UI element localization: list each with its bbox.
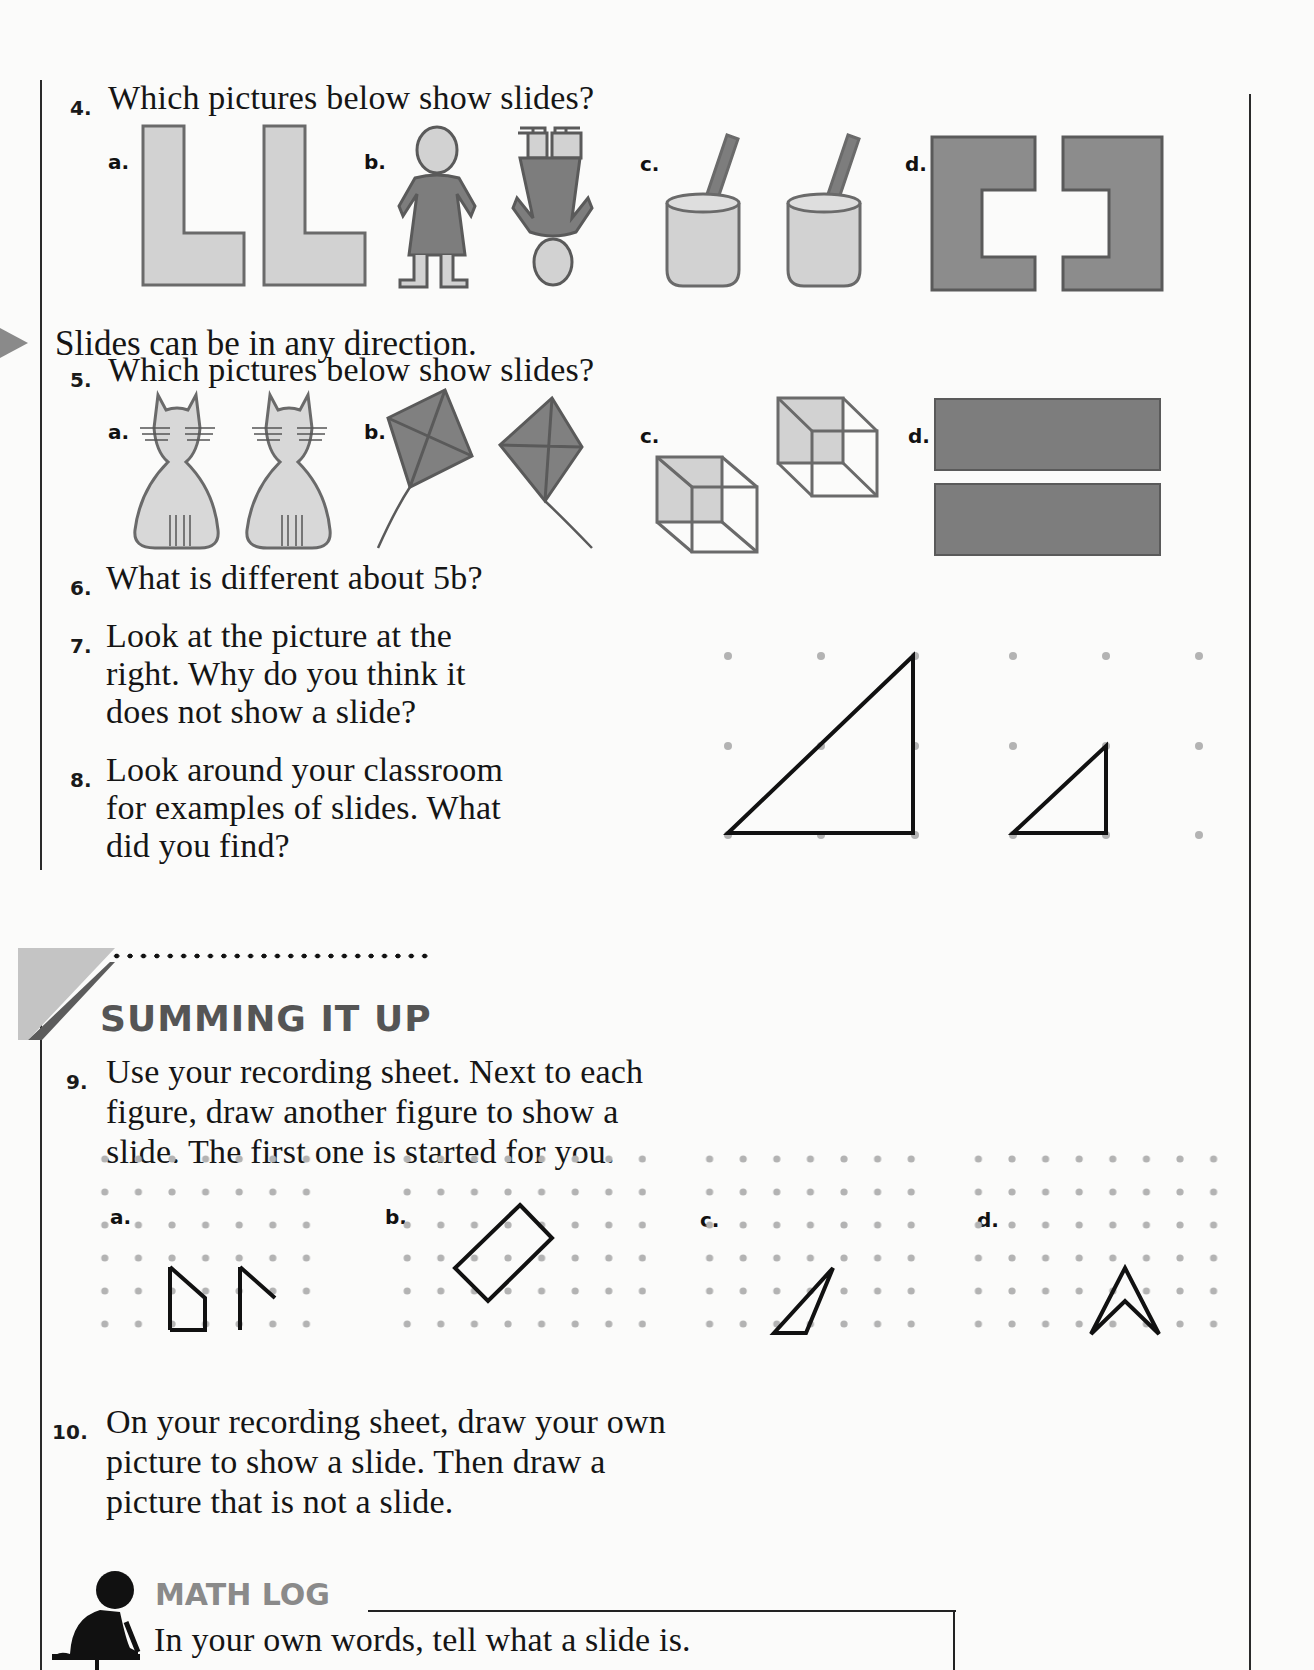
- question-line: picture to show a slide. Then draw a: [106, 1442, 605, 1482]
- q9-dot-grids: [0, 0, 1314, 1320]
- question-line: On your recording sheet, draw your own: [106, 1402, 666, 1442]
- math-log-box-edge: [953, 1610, 955, 1670]
- math-log-rule: [368, 1610, 956, 1612]
- writer-at-desk-icon: [0, 0, 160, 1670]
- math-log-prompt-text: In your own words, tell what a slide is.: [154, 1620, 691, 1660]
- dot-grid-b: [381, 1135, 646, 1339]
- dot-grid-c: [696, 1135, 916, 1339]
- math-log-title: MATH LOG: [155, 1577, 330, 1612]
